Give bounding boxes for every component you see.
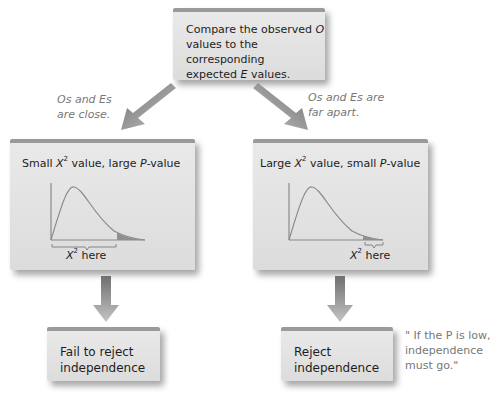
mnemonic-quote: " If the P is low, independence must go.… — [405, 328, 490, 373]
quote-line3: must go." — [405, 359, 458, 372]
result-line2: independence — [294, 361, 379, 375]
reject-text: Reject independence — [294, 344, 379, 376]
quote-line2: independence — [405, 344, 483, 357]
fail-to-reject-box: Fail to reject independence — [47, 327, 160, 381]
reject-box: Reject independence — [281, 327, 393, 381]
quote-line1: " If the P is low, — [405, 329, 490, 342]
result-line1: Reject — [294, 345, 331, 359]
result-line1: Fail to reject — [60, 345, 134, 359]
fail-to-reject-text: Fail to reject independence — [60, 344, 145, 376]
result-line2: independence — [60, 361, 145, 375]
